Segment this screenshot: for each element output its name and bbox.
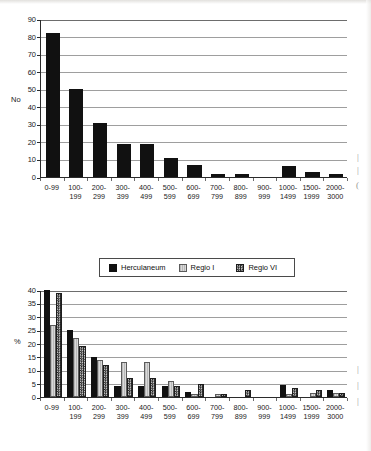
- x-tick-mark: [229, 178, 230, 181]
- gridline: [41, 37, 347, 38]
- y-tick-mark: [37, 317, 40, 318]
- bar: [245, 390, 251, 397]
- gridline: [41, 384, 347, 385]
- y-tick-mark: [37, 20, 40, 21]
- legend-item-herculaneum[interactable]: Herculaneum: [109, 263, 166, 272]
- x-tick-label: 900- 999: [253, 183, 277, 201]
- x-tick-mark: [182, 398, 183, 401]
- gridline: [41, 125, 347, 126]
- legend-label-herculaneum: Herculaneum: [121, 263, 166, 272]
- x-tick-mark: [87, 178, 88, 181]
- x-tick-label: 500- 599: [158, 183, 182, 201]
- gridline: [41, 72, 347, 73]
- y-tick-mark: [37, 142, 40, 143]
- x-tick-mark: [64, 398, 65, 401]
- bar: [221, 394, 227, 397]
- y-tick-label: 50: [28, 86, 36, 94]
- legend-item-regio-i[interactable]: Regio I: [179, 263, 215, 272]
- y-tick-label: 25: [28, 327, 36, 335]
- y-tick-label: 0: [32, 394, 36, 402]
- y-tick-mark: [37, 37, 40, 38]
- x-tick-mark: [40, 178, 41, 181]
- bar: [93, 123, 107, 177]
- gridline: [41, 90, 347, 91]
- bar: [235, 174, 249, 178]
- gridline: [41, 20, 347, 21]
- x-tick-label: 2000- 3000: [323, 403, 347, 421]
- x-tick-mark: [134, 398, 135, 401]
- gridline: [41, 344, 347, 345]
- bar: [305, 172, 319, 177]
- x-tick-label: 100- 199: [64, 183, 88, 201]
- bar: [211, 174, 225, 178]
- x-tick-label: 1000- 1499: [276, 403, 300, 421]
- y-tick-label: 40: [28, 104, 36, 112]
- x-tick-mark: [182, 178, 183, 181]
- x-tick-label: 0-99: [40, 403, 64, 412]
- x-tick-mark: [347, 398, 348, 401]
- bar: [79, 346, 85, 397]
- legend-swatch-regio-i: [179, 264, 187, 272]
- y-tick-label: 30: [28, 121, 36, 129]
- y-tick-label: 20: [28, 139, 36, 147]
- y-tick-label: 90: [28, 16, 36, 24]
- x-tick-label: 200- 299: [87, 183, 111, 201]
- gridline: [41, 371, 347, 372]
- gridline: [41, 55, 347, 56]
- x-tick-label: 700- 799: [205, 183, 229, 201]
- bar: [174, 386, 180, 397]
- bar: [339, 393, 345, 397]
- chart-bottom-percent: % 0-99100- 199200- 299300- 399400- 49950…: [0, 285, 371, 445]
- bar: [282, 166, 296, 177]
- legend-swatch-herculaneum: [109, 264, 117, 272]
- chart-legend: Herculaneum Regio I Regio VI: [99, 258, 295, 277]
- bar: [198, 384, 204, 397]
- y-tick-label: 30: [28, 314, 36, 322]
- x-tick-mark: [300, 398, 301, 401]
- gridline: [41, 304, 347, 305]
- gridline: [41, 160, 347, 161]
- x-tick-mark: [323, 398, 324, 401]
- y-tick-label: 10: [28, 156, 36, 164]
- y-tick-label: 40: [28, 287, 36, 295]
- gridline: [41, 357, 347, 358]
- bar: [117, 144, 131, 177]
- x-tick-mark: [158, 398, 159, 401]
- y-tick-label: 60: [28, 69, 36, 77]
- x-tick-label: 400- 499: [134, 403, 158, 421]
- y-tick-mark: [37, 331, 40, 332]
- x-tick-mark: [111, 398, 112, 401]
- legend-item-regio-vi[interactable]: Regio VI: [236, 263, 277, 272]
- bar: [69, 89, 83, 177]
- x-tick-mark: [276, 398, 277, 401]
- x-tick-label: 1000- 1499: [276, 183, 300, 201]
- x-tick-mark: [205, 178, 206, 181]
- bar: [329, 174, 343, 178]
- y-tick-mark: [37, 357, 40, 358]
- bar: [316, 390, 322, 397]
- x-tick-mark: [323, 178, 324, 181]
- x-tick-label: 1500- 1999: [300, 183, 324, 201]
- plot-area-bottom: [40, 291, 347, 398]
- x-tick-label: 800- 899: [229, 183, 253, 201]
- y-tick-label: 0: [32, 174, 36, 182]
- x-tick-mark: [229, 398, 230, 401]
- x-tick-label: 2000- 3000: [323, 183, 347, 201]
- x-tick-mark: [134, 178, 135, 181]
- y-tick-mark: [37, 291, 40, 292]
- x-tick-mark: [87, 398, 88, 401]
- x-tick-label: 600- 699: [182, 403, 206, 421]
- plot-area-top: [40, 20, 347, 178]
- y-tick-label: 5: [32, 381, 36, 389]
- x-tick-label: 300- 399: [111, 183, 135, 201]
- x-tick-mark: [253, 178, 254, 181]
- x-tick-label: 400- 499: [134, 183, 158, 201]
- bar: [127, 378, 133, 397]
- bar: [150, 378, 156, 397]
- legend-label-regio-i: Regio I: [191, 263, 215, 272]
- x-tick-label: 900- 999: [253, 403, 277, 421]
- legend-label-regio-vi: Regio VI: [248, 263, 277, 272]
- x-tick-label: 500- 599: [158, 403, 182, 421]
- y-tick-mark: [37, 344, 40, 345]
- x-tick-label: 200- 299: [87, 403, 111, 421]
